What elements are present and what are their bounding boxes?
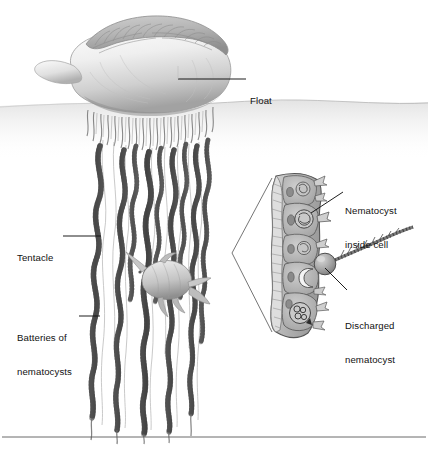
batteries-of-nematocysts-label: Batteries of nematocysts	[17, 309, 72, 400]
float-label: Float	[250, 72, 272, 129]
batteries-label-line-2: nematocysts	[17, 366, 72, 377]
nematocyst-inside-cell-label: Nematocyst inside cell	[345, 182, 397, 273]
nematocyst-inside-cell-line-2: inside cell	[345, 239, 397, 250]
float-label-line-1: Float	[250, 95, 272, 106]
discharged-nematocyst-line-2: nematocyst	[345, 354, 395, 365]
tentacle-label: Tentacle	[17, 229, 54, 286]
callout-connector-lines	[232, 178, 272, 332]
water-region	[0, 100, 428, 160]
tentacle-label-line-1: Tentacle	[17, 252, 54, 263]
float-body	[35, 16, 231, 116]
jellyfish-diagram-figure: Float Tentacle Batteries of nematocysts …	[0, 0, 428, 452]
nematocyst-inside-cell-line-1: Nematocyst	[345, 205, 397, 216]
discharged-nematocyst-line-1: Discharged	[345, 320, 395, 331]
batteries-label-line-1: Batteries of	[17, 332, 72, 343]
leader-discharged-nematocyst	[325, 268, 347, 290]
discharged-nematocyst-label: Discharged nematocyst	[345, 297, 395, 388]
